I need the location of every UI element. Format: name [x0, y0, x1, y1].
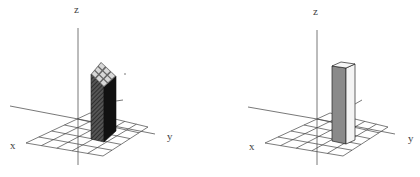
bar-side-face: [346, 64, 355, 144]
z-axis-label: z: [74, 3, 79, 15]
grid-floor: [26, 113, 148, 156]
x-axis-label: x: [249, 140, 255, 152]
grid-floor: [265, 113, 388, 156]
panel-right: z x y: [248, 5, 414, 165]
grid-line: [26, 143, 103, 156]
bar-3d: [332, 62, 355, 144]
z-axis-label: z: [313, 5, 318, 17]
panel-left: z x y: [10, 3, 173, 165]
y-tick: [116, 100, 123, 101]
x-axis-back: [10, 106, 78, 119]
grid-line: [265, 143, 343, 156]
y-tick: [355, 100, 362, 104]
y-axis-label: y: [408, 132, 414, 144]
bar-front-face: [332, 66, 346, 144]
y-axis: [78, 119, 155, 134]
bar-side-face: [104, 76, 116, 142]
x-axis-back: [248, 107, 317, 119]
bar-3d: [91, 62, 116, 142]
figure-canvas: z x y z x y: [0, 0, 420, 177]
x-axis-label: x: [10, 139, 16, 151]
y-axis-label: y: [167, 130, 173, 142]
